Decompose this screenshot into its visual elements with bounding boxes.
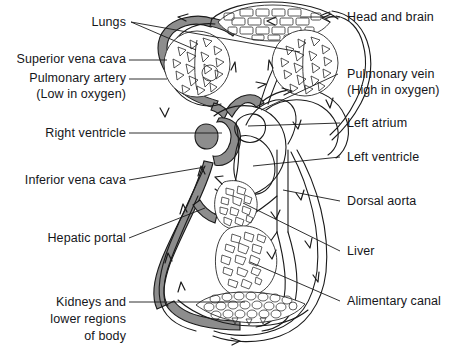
label-left-atrium: Left atrium [347,116,470,131]
flow-arrow [178,282,185,292]
label-pulmonary-artery: Pulmonary artery [0,71,126,86]
label-superior-vena-cava: Superior vena cava [0,52,126,67]
pulmonary-vein-inner [266,100,338,155]
label-pulmonary-vein-note: (High in oxygen) [347,83,470,98]
flow-arrow [296,190,304,200]
flow-arrow [256,82,266,88]
liver-organ [215,181,258,229]
label-pulmonary-vein: Pulmonary vein [347,67,470,82]
label-dorsal-aorta: Dorsal aorta [347,194,470,209]
right-lung-organ [272,30,338,96]
label-kidneys-line2: lower regions [0,312,126,327]
label-lungs: Lungs [0,15,126,30]
leader-left-ventricle [253,157,340,166]
label-liver: Liver [347,244,470,259]
flow-arrow [326,98,333,108]
right-atrium-chamber [195,124,218,149]
circulatory-system-diagram: Lungs Superior vena cava Pulmonary arter… [0,0,470,357]
flow-arrow [215,176,223,184]
label-head-and-brain: Head and brain [347,10,470,25]
flow-arrow [231,62,236,72]
flow-arrow [305,238,312,248]
label-kidneys-line3: of body [0,329,126,344]
leader-hepatic-portal [129,208,205,238]
label-right-ventricle: Right ventricle [0,126,126,141]
leader-inferior-vena-cava [129,167,205,180]
label-inferior-vena-cava: Inferior vena cava [0,173,126,188]
label-pulmonary-artery-note: (Low in oxygen) [0,87,126,102]
label-hepatic-portal: Hepatic portal [0,231,126,246]
alimentary-canal-organ [215,226,276,297]
label-kidneys-line1: Kidneys and [0,295,126,310]
leader-dorsal-aorta [283,190,340,201]
label-alimentary-canal: Alimentary canal [347,294,470,309]
label-left-ventricle: Left ventricle [347,150,470,165]
flow-arrow [160,108,169,117]
